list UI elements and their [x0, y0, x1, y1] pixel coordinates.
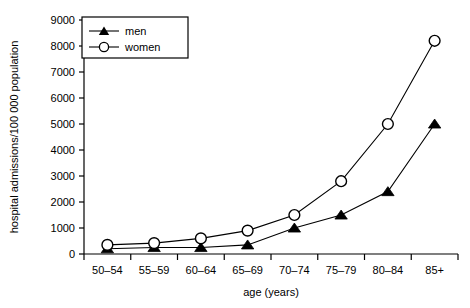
y-tick-label: 5000 [51, 118, 75, 130]
x-tick-label: 55–59 [139, 264, 170, 276]
y-tick-label: 7000 [51, 66, 75, 78]
legend-label-men: men [125, 25, 146, 37]
x-tick-label: 70–74 [279, 264, 310, 276]
data-point-women[interactable] [242, 225, 253, 236]
data-point-women[interactable] [149, 238, 160, 249]
y-tick-label: 8000 [51, 40, 75, 52]
data-point-women[interactable] [195, 233, 206, 244]
y-tick-label: 6000 [51, 92, 75, 104]
data-point-women[interactable] [336, 176, 347, 187]
x-tick-label: 75–79 [326, 264, 357, 276]
y-axis-title: hospital admissions/100 000 population [8, 41, 20, 234]
x-tick-label: 80–84 [373, 264, 404, 276]
data-point-women[interactable] [382, 119, 393, 130]
open-circle-icon [99, 42, 108, 51]
y-tick-label: 4000 [51, 144, 75, 156]
x-tick-label: 65–69 [232, 264, 263, 276]
y-tick-label: 0 [69, 248, 75, 260]
x-axis-title: age (years) [243, 286, 299, 298]
chart-container: 0100020003000400050006000700080009000 50… [0, 0, 470, 308]
x-tick-label: 60–64 [186, 264, 217, 276]
y-tick-label: 3000 [51, 170, 75, 182]
x-tick-label: 85+ [425, 264, 444, 276]
data-point-women[interactable] [102, 240, 113, 251]
y-tick-label: 2000 [51, 196, 75, 208]
chart-legend: men women [82, 17, 188, 58]
legend-label-women: women [124, 41, 160, 53]
line-chart: 0100020003000400050006000700080009000 50… [0, 0, 470, 308]
data-point-women[interactable] [429, 35, 440, 46]
x-tick-label: 50–54 [92, 264, 123, 276]
y-tick-label: 9000 [51, 14, 75, 26]
data-point-women[interactable] [289, 210, 300, 221]
y-tick-label: 1000 [51, 222, 75, 234]
